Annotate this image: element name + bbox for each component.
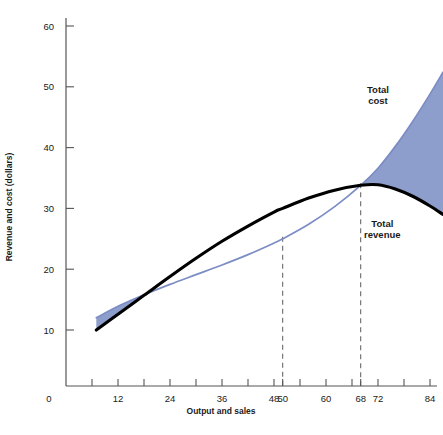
- y-tick-label-20: 20: [43, 264, 54, 275]
- curves-group: [96, 72, 443, 330]
- x-tick-label-0: 0: [46, 393, 51, 404]
- total-revenue-label-line2: revenue: [364, 229, 400, 240]
- x-tick-label-24: 24: [165, 393, 176, 404]
- x-axis-tick-labels: 0122436485060687284: [46, 393, 435, 404]
- total-revenue-label: Total: [371, 218, 393, 229]
- y-tick-label-50: 50: [43, 81, 54, 92]
- y-axis-title: Revenue and cost (dollars): [4, 153, 14, 262]
- x-tick-label-36: 36: [217, 393, 228, 404]
- total-cost-label-line2: cost: [368, 95, 388, 106]
- y-tick-label-40: 40: [43, 142, 54, 153]
- y-axis-tick-labels: 102030405060: [43, 21, 54, 336]
- total-cost-label: Total: [367, 84, 389, 95]
- y-tick-label-10: 10: [43, 325, 54, 336]
- y-tick-label-30: 30: [43, 203, 54, 214]
- total-cost-curve: [96, 72, 443, 318]
- x-tick-label-84: 84: [425, 393, 436, 404]
- y-axis-ticks: [66, 26, 74, 330]
- x-tick-label-72: 72: [373, 393, 384, 404]
- y-tick-label-60: 60: [43, 21, 54, 32]
- x-axis-ticks: [92, 379, 430, 386]
- axes-group: [66, 18, 437, 386]
- chart-container: 102030405060 0122436485060687284 Total c…: [0, 0, 443, 435]
- reference-lines-group: [283, 183, 361, 386]
- x-tick-label-50: 50: [277, 393, 288, 404]
- total-revenue-curve: [96, 184, 443, 330]
- x-tick-label-60: 60: [321, 393, 332, 404]
- break-even-chart: 102030405060 0122436485060687284 Total c…: [0, 0, 443, 435]
- x-tick-label-12: 12: [113, 393, 124, 404]
- x-tick-label-68: 68: [355, 393, 366, 404]
- x-axis-title: Output and sales: [187, 406, 256, 416]
